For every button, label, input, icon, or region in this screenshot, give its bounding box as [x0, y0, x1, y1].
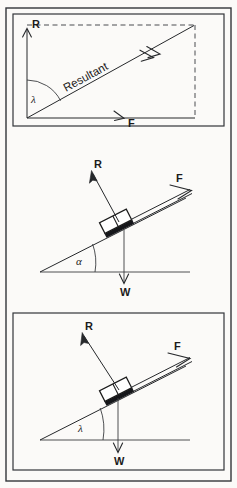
panel3-w-label: W: [114, 455, 125, 467]
panel2-angle-label: α: [76, 255, 82, 267]
panel3-f-label: F: [174, 340, 181, 352]
panel2-f-label: F: [176, 172, 183, 184]
panel1-r-label: R: [32, 18, 40, 30]
panel2-r-label: R: [94, 158, 102, 170]
panel3-r-label: R: [85, 320, 93, 332]
panel2-w-label: W: [120, 286, 131, 298]
panel3-angle-label: λ: [77, 422, 83, 434]
panel1-angle-label: λ: [30, 93, 36, 105]
figure-container: R F λ Resultant α: [0, 0, 237, 488]
panel1-f-label: F: [128, 117, 135, 129]
page-background: [0, 0, 237, 488]
force-diagram-svg: R F λ Resultant α: [0, 0, 237, 488]
